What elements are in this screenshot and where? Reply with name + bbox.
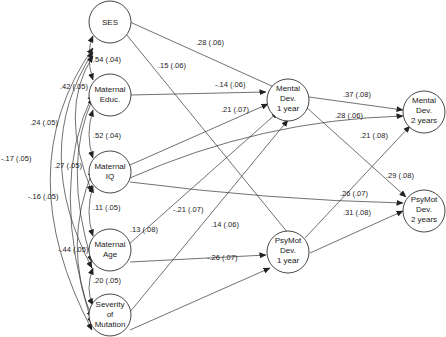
label-ses-iq: .42 (.05) — [60, 82, 88, 91]
svg-text:PsyMot: PsyMot — [411, 195, 438, 204]
node-ses: SES — [89, 1, 131, 43]
node-mental-dev-2-years: Mental Dev. 2 years — [403, 91, 445, 133]
label-iq-md1: .21 (.07) — [221, 105, 249, 114]
node-maternal-iq: Maternal IQ — [89, 151, 131, 193]
label-iq-age: .11 (.05) — [93, 203, 121, 212]
label-educ-iq: .52 (.04) — [93, 131, 121, 140]
label-iq-md2: .28 (.06) — [335, 111, 363, 120]
svg-text:IQ: IQ — [106, 172, 114, 181]
label-age-pd1: .14 (.06) — [211, 220, 239, 229]
path-labels: .28 (.06) .15 (.06) -.14 (.06) .21 (.07)… — [130, 38, 414, 262]
svg-text:2 years: 2 years — [411, 215, 437, 224]
node-maternal-educ: Maternal Educ. — [89, 74, 131, 116]
label-ses-age: .24 (.05) — [30, 118, 58, 127]
label-educ-md1: -.14 (.06) — [215, 80, 246, 89]
label-ses-pd1: .15 (.06) — [158, 61, 186, 70]
label-educ-age: .27 (.05) — [54, 161, 82, 170]
svg-text:Dev.: Dev. — [280, 94, 296, 103]
label-educ-sev: -.16 (.05) — [28, 192, 59, 201]
label-pd1-pd2: .31 (.08) — [343, 208, 371, 217]
label-ses-sev: -.17 (.05) — [1, 154, 32, 163]
svg-text:Mutation: Mutation — [95, 320, 126, 329]
label-iq-sev: -.44 (.05) — [58, 245, 89, 254]
svg-text:Mental: Mental — [412, 96, 436, 105]
node-maternal-age: Maternal Age — [89, 229, 131, 271]
svg-text:Dev.: Dev. — [280, 246, 296, 255]
node-severity-of-mutation: Severity of Mutation — [89, 294, 131, 336]
label-sev-pd1: -.26 (.07) — [207, 253, 238, 262]
label-iq-pd2: .26 (.07) — [340, 189, 368, 198]
svg-text:Maternal: Maternal — [94, 85, 125, 94]
svg-text:SES: SES — [102, 18, 118, 27]
label-ses-educ: .54 (.04) — [93, 55, 121, 64]
svg-text:Maternal: Maternal — [94, 240, 125, 249]
svg-text:1 year: 1 year — [277, 256, 300, 265]
node-psymot-dev-2-years: PsyMot Dev. 2 years — [403, 190, 445, 232]
svg-text:Dev.: Dev. — [416, 106, 432, 115]
label-pd1-md2: .21 (.08) — [360, 131, 388, 140]
svg-text:Dev.: Dev. — [416, 205, 432, 214]
svg-text:1 year: 1 year — [277, 104, 300, 113]
svg-text:2 years: 2 years — [411, 116, 437, 125]
svg-text:Educ.: Educ. — [100, 95, 120, 104]
label-sev-md1: -.21 (.07) — [173, 205, 204, 214]
node-psymot-dev-1-year: PsyMot Dev. 1 year — [267, 231, 309, 273]
path-diagram: SES Maternal Educ. Maternal IQ Maternal … — [0, 0, 446, 337]
label-age-sev: .20 (.05) — [93, 276, 121, 285]
label-age-md1: .13 (.08) — [130, 225, 158, 234]
svg-text:Age: Age — [103, 250, 118, 259]
svg-text:Mental: Mental — [276, 84, 300, 93]
svg-text:Severity: Severity — [96, 300, 125, 309]
svg-text:Maternal: Maternal — [94, 162, 125, 171]
node-mental-dev-1-year: Mental Dev. 1 year — [267, 79, 309, 121]
svg-text:of: of — [107, 310, 114, 319]
svg-text:PsyMot: PsyMot — [275, 236, 302, 245]
label-md1-pd2: .29 (.08) — [386, 171, 414, 180]
label-md1-md2: .37 (.08) — [343, 90, 371, 99]
correlation-arcs — [50, 36, 93, 330]
label-ses-md1: .28 (.06) — [196, 38, 224, 47]
